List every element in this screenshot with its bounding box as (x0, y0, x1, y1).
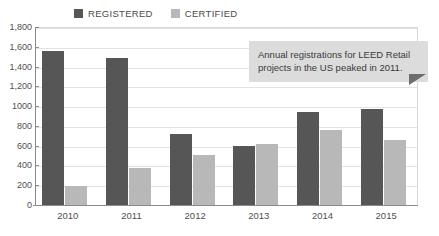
bar-certified-2015 (384, 140, 406, 205)
y-axis-tick-label: 1,400 (0, 62, 32, 72)
bar-registered-2010 (42, 51, 64, 205)
y-axis-tick-label: 200 (0, 180, 32, 190)
y-axis-tick-mark (36, 205, 39, 206)
bar-certified-2013 (256, 144, 278, 205)
legend-label-registered: REGISTERED (88, 8, 153, 19)
x-axis-tick-label: 2014 (291, 210, 355, 221)
bar-certified-2014 (320, 130, 342, 205)
y-axis-tick-label: 800 (0, 121, 32, 131)
x-axis-tick-label: 2010 (36, 210, 100, 221)
legend-item-registered: REGISTERED (74, 8, 153, 19)
bar-certified-2012 (193, 155, 215, 205)
bar-registered-2012 (170, 134, 192, 205)
bar-registered-2011 (106, 58, 128, 205)
bar-certified-2010 (65, 186, 87, 205)
y-axis-tick-mark (36, 27, 39, 28)
chart-legend: REGISTERED CERTIFIED (74, 6, 237, 20)
y-axis-tick-label: 1000 (0, 101, 32, 111)
y-axis-tick-mark (36, 185, 39, 186)
annotation-callout: Annual registrations for LEED Retail pro… (249, 41, 428, 82)
y-axis-tick-label: 1,200 (0, 81, 32, 91)
legend-item-certified: CERTIFIED (171, 8, 238, 19)
annotation-text: Annual registrations for LEED Retail pro… (258, 48, 419, 74)
y-axis-labels: 020040060080010001,2001,4001,6001,800 (0, 0, 32, 236)
y-axis-tick-label: 1,800 (0, 22, 32, 32)
y-axis-line (35, 27, 36, 206)
x-axis-line (33, 205, 418, 206)
y-axis-tick-mark (36, 165, 39, 166)
bar-chart: REGISTERED CERTIFIED 020040060080010001,… (0, 0, 439, 236)
legend-swatch-registered (74, 9, 83, 18)
legend-swatch-certified (171, 9, 180, 18)
x-axis-tick-label: 2012 (163, 210, 227, 221)
bar-registered-2013 (233, 146, 255, 205)
y-axis-tick-label: 400 (0, 160, 32, 170)
y-axis-tick-mark (36, 106, 39, 107)
y-axis-tick-mark (36, 47, 39, 48)
bar-registered-2014 (297, 112, 319, 205)
bar-certified-2011 (129, 168, 151, 205)
x-axis-tick-label: 2013 (227, 210, 291, 221)
annotation-callout-tail (409, 74, 426, 85)
y-axis-tick-mark (36, 146, 39, 147)
legend-label-certified: CERTIFIED (185, 8, 238, 19)
y-axis-tick-mark (36, 67, 39, 68)
y-axis-tick-mark (36, 126, 39, 127)
x-axis-tick-label: 2011 (100, 210, 164, 221)
y-axis-tick-mark (36, 86, 39, 87)
y-axis-tick-label: 1,600 (0, 42, 32, 52)
bar-registered-2015 (361, 109, 383, 205)
x-axis-tick-label: 2015 (354, 210, 418, 221)
y-axis-tick-label: 0 (0, 200, 32, 210)
y-axis-tick-label: 600 (0, 141, 32, 151)
